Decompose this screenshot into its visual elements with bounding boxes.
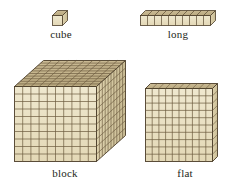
block-shape [15,61,126,162]
long-label: long [145,28,211,40]
block-label: block [30,167,100,179]
cube-shape [53,11,68,26]
cube-label: cube [28,28,94,40]
cube-front-face [53,16,63,26]
flat-shape [146,84,218,162]
flat-label: flat [152,167,218,179]
long-shape [141,11,216,26]
